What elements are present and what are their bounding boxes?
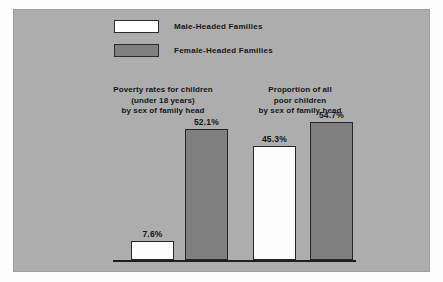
caption-line: poor children	[234, 96, 366, 107]
bar-group1-male-headed	[131, 241, 174, 260]
legend-item-male-headed-families: Male-Headed Families	[114, 18, 344, 35]
caption-line: (under 18 years)	[97, 96, 229, 107]
bar-value-label-group1-male: 7.6%	[131, 229, 174, 239]
chart-legend: Male-Headed Families Female-Headed Famil…	[114, 18, 344, 66]
legend-label-female-headed-families: Female-Headed Families	[174, 46, 273, 55]
legend-label-male-headed-families: Male-Headed Families	[174, 22, 263, 31]
bar-group2-female-headed	[310, 122, 353, 260]
caption-line: Poverty rates for children	[97, 85, 229, 96]
legend-swatch-gray-icon	[114, 44, 159, 57]
chart-panel: Male-Headed Families Female-Headed Famil…	[13, 9, 430, 272]
chart-figure: Male-Headed Families Female-Headed Famil…	[0, 0, 443, 282]
caption-line: Proportion of all	[234, 85, 366, 96]
bar-value-label-group2-female: 54.7%	[310, 110, 353, 120]
legend-swatch-white-icon	[114, 20, 159, 33]
plot-area: 7.6% 52.1% 45.3% 54.7%	[113, 109, 356, 262]
legend-item-female-headed-families: Female-Headed Families	[114, 42, 344, 59]
bar-group2-male-headed	[253, 146, 296, 260]
bar-value-label-group1-female: 52.1%	[185, 117, 228, 127]
axis-baseline	[113, 260, 356, 262]
bar-group1-female-headed	[185, 129, 228, 260]
bar-value-label-group2-male: 45.3%	[253, 134, 296, 144]
